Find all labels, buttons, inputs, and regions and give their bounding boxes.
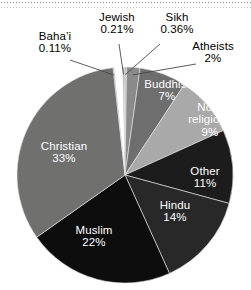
slice-label-hindu-name: Hindu	[149, 199, 201, 211]
slice-label-muslim-name: Muslim	[64, 224, 124, 236]
chart-canvas: Baha’i 0.11% Jewish 0.21% Sikh 0.36% Ath…	[0, 0, 251, 290]
slice-label-jewish: Jewish 0.21%	[86, 11, 148, 36]
slice-label-christian-value: 33%	[26, 152, 102, 164]
slice-label-hindu: Hindu 14%	[149, 199, 201, 224]
slice-label-jewish-value: 0.21%	[86, 23, 148, 35]
slice-label-other-name: Other	[176, 165, 234, 177]
slice-label-christian: Christian 33%	[26, 140, 102, 165]
slice-label-nonreligious: Non- religious 9%	[180, 101, 240, 138]
slice-label-buddhist-name: Buddhist	[133, 78, 201, 90]
slice-label-sikh: Sikh 0.36%	[150, 11, 204, 36]
slice-label-muslim: Muslim 22%	[64, 224, 124, 249]
slice-label-bahai: Baha’i 0.11%	[22, 30, 88, 55]
slice-label-nonreligious-name-line1: Non-	[180, 101, 240, 113]
slice-label-jewish-name: Jewish	[86, 11, 148, 23]
slice-label-hindu-value: 14%	[149, 211, 201, 223]
slice-label-sikh-value: 0.36%	[150, 23, 204, 35]
slice-label-atheists-name: Atheists	[176, 40, 250, 52]
slice-label-nonreligious-name-line2: religious	[180, 113, 240, 125]
slice-label-bahai-value: 0.11%	[22, 42, 88, 54]
slice-label-other: Other 11%	[176, 165, 234, 190]
slice-label-sikh-name: Sikh	[150, 11, 204, 23]
slice-label-buddhist: Buddhist 7%	[133, 78, 201, 103]
leader-line-jewish	[119, 44, 124, 75]
slice-label-atheists-value: 2%	[176, 52, 250, 64]
slice-label-nonreligious-value: 9%	[180, 126, 240, 138]
slice-label-muslim-value: 22%	[64, 236, 124, 248]
slice-label-christian-name: Christian	[26, 140, 102, 152]
slice-label-bahai-name: Baha’i	[22, 30, 88, 42]
slice-label-other-value: 11%	[176, 177, 234, 189]
slice-label-atheists: Atheists 2%	[176, 40, 250, 65]
